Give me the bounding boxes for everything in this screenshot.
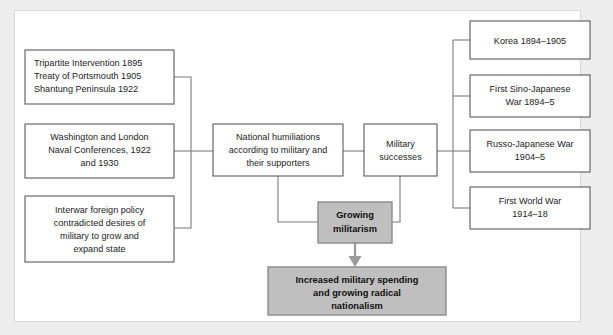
cause-treaties-line-3: Shantung Peninsula 1922 (34, 84, 138, 94)
humiliations-line-3: their supporters (246, 158, 310, 168)
militarism-line-2: militarism (333, 224, 377, 234)
war-sino-japanese: First Sino-Japanese War 1894–5 (470, 75, 590, 117)
final-line-2: and growing radical (313, 288, 401, 298)
cause-naval-line-3: and 1930 (81, 158, 119, 168)
war-wwi-line-2: 1914–18 (512, 209, 547, 219)
connector-militarism-to-final (349, 243, 362, 267)
war-russo-line-2: 1904–5 (515, 152, 545, 162)
militarism-line-1: Growing (336, 210, 374, 220)
cause-interwar-policy: Interwar foreign policy contradicted des… (25, 196, 174, 262)
node-increased-spending: Increased military spending and growing … (268, 267, 446, 315)
humiliations-line-2: according to military and (229, 145, 328, 155)
node-growing-militarism: Growing militarism (318, 202, 392, 243)
cause-interwar-line-2: contradicted desires of (54, 218, 146, 228)
cause-treaties-line-1: Tripartite Intervention 1895 (34, 58, 142, 68)
successes-line-2: successes (379, 152, 422, 162)
war-sino-line-1: First Sino-Japanese (490, 84, 571, 94)
connector-humiliations-to-militarism (278, 176, 318, 222)
cause-interwar-line-4: expand state (73, 244, 125, 254)
cause-interwar-line-1: Interwar foreign policy (55, 205, 144, 215)
cause-naval-line-1: Washington and London (50, 132, 148, 142)
war-wwi-line-1: First World War (499, 196, 562, 206)
cause-interwar-line-3: military to grow and (60, 231, 139, 241)
cause-treaties: Tripartite Intervention 1895 Treaty of P… (25, 50, 174, 104)
war-russo-japanese: Russo-Japanese War 1904–5 (470, 130, 590, 172)
war-russo-line-1: Russo-Japanese War (486, 139, 573, 149)
connector-successes-to-militarism (392, 176, 400, 222)
connector-causes-to-humiliations (174, 77, 213, 228)
war-sino-line-2: War 1894–5 (505, 97, 554, 107)
cause-treaties-line-2: Treaty of Portsmouth 1905 (34, 71, 141, 81)
war-korea: Korea 1894–1905 (470, 21, 590, 59)
war-korea-line-1: Korea 1894–1905 (494, 36, 566, 46)
cause-naval-line-2: Naval Conferences, 1922 (48, 145, 151, 155)
final-line-1: Increased military spending (296, 275, 419, 285)
successes-line-1: Military (386, 139, 415, 149)
humiliations-line-1: National humiliations (236, 132, 320, 142)
node-military-successes: Military successes (364, 124, 437, 176)
flowchart-svg: Tripartite Intervention 1895 Treaty of P… (0, 0, 613, 335)
final-line-3: nationalism (331, 301, 383, 311)
node-national-humiliations: National humiliations according to milit… (213, 124, 343, 176)
cause-naval-conferences: Washington and London Naval Conferences,… (25, 124, 174, 178)
war-first-world-war: First World War 1914–18 (470, 187, 590, 229)
flowchart-stage: Tripartite Intervention 1895 Treaty of P… (0, 0, 613, 335)
connector-successes-to-wars (437, 40, 470, 208)
